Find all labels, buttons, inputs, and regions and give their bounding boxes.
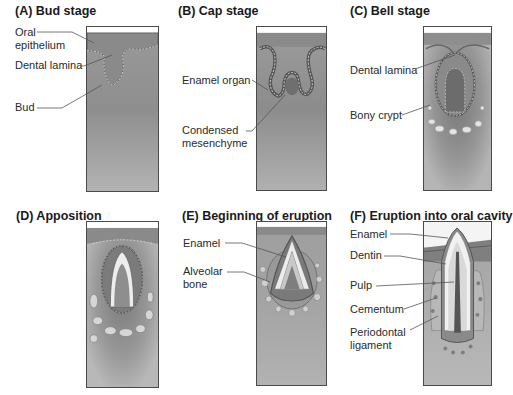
- panel-b-illustration: [256, 26, 327, 191]
- label-bud: Bud: [15, 101, 35, 114]
- label-enamel-f: Enamel: [350, 228, 387, 241]
- panel-f-illustration: [423, 221, 492, 386]
- label-bony-crypt: Bony crypt: [350, 109, 402, 122]
- label-oral-epithelium: Oral epithelium: [15, 26, 65, 52]
- panel-c-illustration: [423, 26, 492, 191]
- panel-d-illustration: [86, 221, 159, 388]
- label-dental-lamina-c: Dental lamina: [350, 64, 417, 77]
- label-cementum: Cementum: [350, 303, 404, 316]
- label-enamel-e: Enamel: [183, 237, 220, 250]
- label-dentin: Dentin: [350, 249, 382, 262]
- label-condensed-mesenchyme: Condensed mesenchyme: [182, 124, 247, 150]
- label-periodontal-ligament: Periodontal ligament: [350, 326, 406, 352]
- label-dental-lamina-a: Dental lamina: [15, 59, 82, 72]
- label-pulp: Pulp: [350, 279, 372, 292]
- panel-e-illustration: [256, 221, 327, 386]
- label-enamel-organ: Enamel organ: [182, 74, 251, 87]
- label-alveolar-bone: Alveolar bone: [183, 265, 223, 291]
- panel-c-title: (C) Bell stage: [350, 4, 430, 18]
- panel-b-title: (B) Cap stage: [178, 4, 259, 18]
- panel-a-illustration: [86, 26, 159, 192]
- panel-a-title: (A) Bud stage: [15, 4, 96, 18]
